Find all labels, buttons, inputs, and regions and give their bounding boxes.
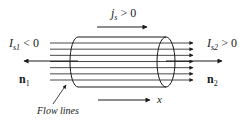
current-flow-diagram: js > 0 Is1 < 0 n1 Is2 > 0 n2 x Flow line… [0,0,245,120]
current-density-label: js > 0 [109,6,136,22]
flow-lines-pointer [53,85,66,104]
current-is2-label: Is2 > 0 [206,36,237,52]
normal-n1-label: n1 [19,72,30,88]
flow-lines-label: Flow lines [36,105,79,116]
cylinder-right-end [157,37,175,87]
normal-n2-label: n2 [207,72,218,88]
current-is1-label: Is1 < 0 [8,36,39,52]
cylinder [70,37,175,87]
cylinder-left-end [70,37,78,87]
x-axis-label: x [156,93,162,105]
